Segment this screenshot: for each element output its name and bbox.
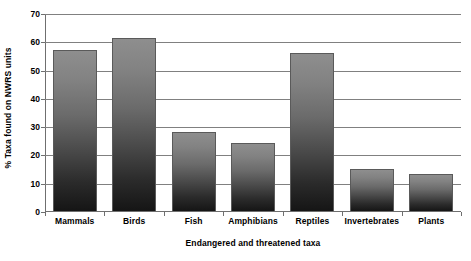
y-axis-tick-label: 60	[31, 38, 40, 47]
x-axis-tick-label: Birds	[123, 216, 145, 226]
x-axis-tick-label: Amphibians	[228, 216, 278, 226]
y-axis-tick-mark	[41, 42, 45, 43]
bar-series	[45, 14, 461, 211]
bar	[409, 174, 453, 211]
y-axis-tick-label: 70	[31, 10, 40, 19]
y-axis-tick-mark	[41, 14, 45, 15]
bar	[172, 132, 216, 211]
x-axis-tick-labels: MammalsBirdsFishAmphibiansReptilesInvert…	[45, 216, 461, 232]
x-axis-tick-label: Plants	[418, 216, 444, 226]
y-axis-tick-mark	[41, 71, 45, 72]
bar	[53, 50, 97, 211]
bar	[350, 169, 394, 211]
y-axis-tick-label: 30	[31, 123, 40, 132]
y-axis-tick-label: 0	[35, 208, 40, 217]
bar	[112, 38, 156, 211]
x-axis-title: Endangered and threatened taxa	[45, 238, 461, 248]
y-axis-tick-labels: 010203040506070	[16, 8, 42, 214]
x-axis-tick-label: Reptiles	[295, 216, 329, 226]
x-axis-line	[45, 211, 461, 212]
x-axis-tick-label: Mammals	[55, 216, 94, 226]
x-axis-tick-label: Invertebrates	[345, 216, 400, 226]
y-axis-tick-label: 40	[31, 95, 40, 104]
y-axis-tick-mark	[41, 155, 45, 156]
x-axis-tick-mark	[461, 212, 462, 216]
y-axis-tick-mark	[41, 184, 45, 185]
y-axis-tick-label: 50	[31, 66, 40, 75]
plot-area	[45, 14, 461, 212]
bar	[290, 53, 334, 211]
y-axis-tick-label: 10	[31, 179, 40, 188]
y-axis-tick-mark	[41, 127, 45, 128]
y-axis-tick-label: 20	[31, 151, 40, 160]
x-axis-tick-label: Fish	[185, 216, 203, 226]
y-axis-title-text: % Taxa found on NWRS units	[3, 47, 13, 168]
y-axis-title: % Taxa found on NWRS units	[0, 0, 16, 215]
bar-chart: % Taxa found on NWRS units 0102030405060…	[0, 0, 471, 261]
y-axis-tick-mark	[41, 99, 45, 100]
bar	[231, 143, 275, 211]
